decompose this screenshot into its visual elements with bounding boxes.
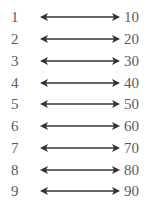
right-value: 90 bbox=[124, 181, 139, 201]
mapping-row: 2 20 bbox=[0, 29, 149, 49]
mapping-row: 5 50 bbox=[0, 94, 149, 114]
double-arrow-icon bbox=[40, 185, 120, 197]
left-value: 5 bbox=[11, 94, 19, 114]
mapping-row: 3 30 bbox=[0, 51, 149, 71]
left-value: 3 bbox=[11, 51, 19, 71]
right-value: 60 bbox=[124, 116, 139, 136]
right-value: 30 bbox=[124, 51, 139, 71]
mapping-row: 8 80 bbox=[0, 160, 149, 180]
right-value: 70 bbox=[124, 138, 139, 158]
left-value: 8 bbox=[11, 160, 19, 180]
double-arrow-icon bbox=[40, 55, 120, 67]
double-arrow-icon bbox=[40, 33, 120, 45]
double-arrow-icon bbox=[40, 98, 120, 110]
mapping-row: 4 40 bbox=[0, 73, 149, 93]
right-value: 80 bbox=[124, 160, 139, 180]
right-value: 40 bbox=[124, 73, 139, 93]
double-arrow-icon bbox=[40, 164, 120, 176]
mapping-row: 6 60 bbox=[0, 116, 149, 136]
double-arrow-icon bbox=[40, 120, 120, 132]
left-value: 2 bbox=[11, 29, 19, 49]
mapping-row: 7 70 bbox=[0, 138, 149, 158]
left-value: 1 bbox=[11, 7, 19, 27]
right-value: 20 bbox=[124, 29, 139, 49]
mapping-row: 1 10 bbox=[0, 7, 149, 27]
double-arrow-icon bbox=[40, 11, 120, 23]
left-value: 7 bbox=[11, 138, 19, 158]
left-value: 4 bbox=[11, 73, 19, 93]
double-arrow-icon bbox=[40, 77, 120, 89]
right-value: 50 bbox=[124, 94, 139, 114]
mapping-row: 9 90 bbox=[0, 181, 149, 201]
left-value: 6 bbox=[11, 116, 19, 136]
double-arrow-icon bbox=[40, 142, 120, 154]
right-value: 10 bbox=[124, 7, 139, 27]
left-value: 9 bbox=[11, 181, 19, 201]
